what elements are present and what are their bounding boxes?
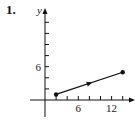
direction-arrow-icon [86, 80, 93, 86]
y-axis-arrow-icon [43, 8, 48, 14]
x-tick-label: 6 [76, 102, 82, 114]
y-axis-label: y [36, 4, 42, 16]
x-axis-arrow-icon [129, 98, 135, 103]
x-tick-label: 12 [106, 102, 117, 114]
y-tick-label: 6 [36, 61, 42, 73]
start-point-marker [54, 92, 58, 96]
chart: y6126 [0, 0, 135, 120]
end-point-marker [121, 70, 125, 74]
